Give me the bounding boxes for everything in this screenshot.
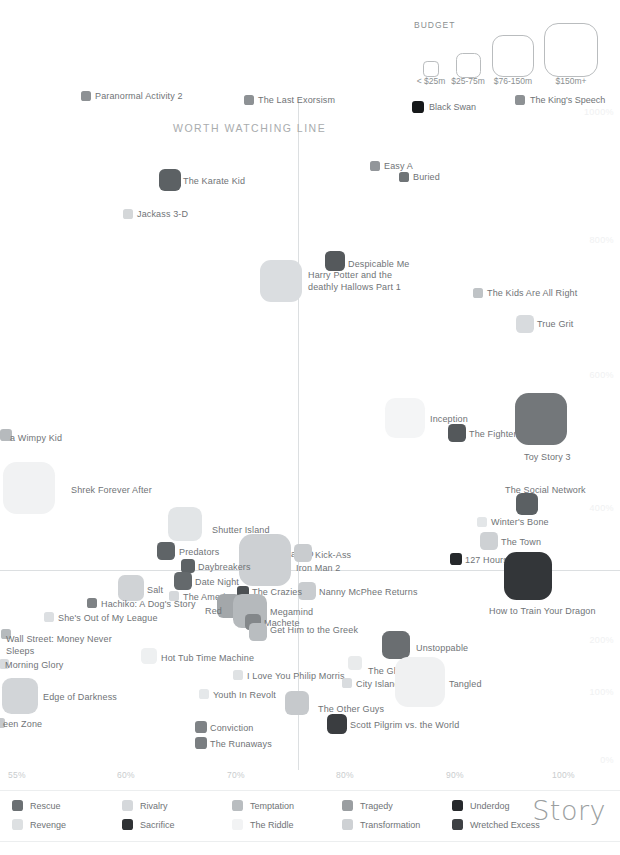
data-point-bubble[interactable] — [342, 678, 352, 688]
data-point-label: Tangled — [449, 679, 482, 691]
story-legend-label: Rivalry — [140, 801, 168, 811]
data-point-label: Easy A — [384, 161, 413, 173]
y-axis-tick: 600% — [589, 370, 614, 380]
budget-legend-example-bubble[interactable] — [412, 101, 424, 113]
data-point-label: Get Him to the Greek — [270, 625, 358, 637]
x-axis-tick: 100% — [552, 770, 575, 780]
data-point-label: The Town — [501, 537, 541, 549]
story-legend-item[interactable]: The Riddle — [232, 819, 294, 830]
story-legend-swatch — [452, 800, 463, 811]
data-point-label: een Zone — [3, 719, 42, 731]
x-axis-tick: 70% — [227, 770, 245, 780]
data-point-bubble[interactable] — [399, 172, 409, 182]
data-point-bubble[interactable] — [249, 623, 267, 641]
x-axis-tick: 55% — [8, 770, 26, 780]
data-point-bubble[interactable] — [157, 542, 175, 560]
data-point-label: Edge of Darkness — [43, 692, 117, 704]
data-point-bubble[interactable] — [168, 507, 202, 541]
story-legend-item[interactable]: Underdog — [452, 800, 510, 811]
chart-title: Story — [532, 795, 606, 826]
data-point-bubble[interactable] — [195, 721, 207, 733]
data-point-label: Toy Story 3 — [524, 452, 571, 464]
x-axis-ticks: 55%60%70%80%90%100% — [0, 770, 620, 786]
data-point-bubble[interactable] — [199, 689, 209, 699]
data-point-label: Conviction — [210, 723, 254, 735]
data-point-bubble[interactable] — [450, 553, 462, 565]
data-point-bubble[interactable] — [174, 572, 192, 590]
worth-watching-vertical-line — [298, 100, 299, 770]
story-legend-swatch — [232, 800, 243, 811]
data-point-bubble[interactable] — [480, 532, 498, 550]
data-point-label: How to Train Your Dragon — [489, 606, 596, 618]
data-point-label: Predators — [179, 547, 219, 559]
data-point-bubble[interactable] — [239, 534, 291, 586]
data-point-bubble[interactable] — [348, 656, 362, 670]
data-point-label: Wall Street: Money Never Sleeps — [6, 634, 116, 657]
data-point-label: Morning Glory — [5, 660, 63, 672]
data-point-bubble[interactable] — [477, 517, 487, 527]
story-legend-item[interactable]: Rivalry — [122, 800, 168, 811]
data-point-bubble[interactable] — [118, 575, 144, 601]
data-point-bubble[interactable] — [370, 161, 380, 171]
story-legend-item[interactable]: Wretched Excess — [452, 819, 540, 830]
data-point-bubble[interactable] — [285, 691, 309, 715]
scatter-plot-canvas: WORTH WATCHING LINE 1000%800%600%400%200… — [0, 0, 620, 785]
data-point-bubble[interactable] — [181, 559, 195, 573]
data-point-bubble[interactable] — [382, 631, 410, 659]
data-point-bubble[interactable] — [44, 612, 54, 622]
story-legend-swatch — [122, 819, 133, 830]
story-legend-item[interactable]: Transformation — [342, 819, 420, 830]
y-axis-tick: 800% — [589, 235, 614, 245]
story-legend-swatch — [12, 800, 23, 811]
data-point-bubble[interactable] — [244, 95, 254, 105]
data-point-bubble[interactable] — [141, 648, 157, 664]
data-point-bubble[interactable] — [473, 288, 483, 298]
story-legend-item[interactable]: Rescue — [12, 800, 61, 811]
data-point-bubble[interactable] — [504, 552, 552, 600]
data-point-bubble[interactable] — [385, 398, 425, 438]
story-legend-item[interactable]: Sacrifice — [122, 819, 175, 830]
data-point-bubble[interactable] — [3, 462, 55, 514]
data-point-bubble[interactable] — [159, 169, 181, 191]
story-legend-swatch — [452, 819, 463, 830]
budget-size-ring — [423, 61, 439, 77]
data-point-label: The Kids Are All Right — [487, 288, 577, 300]
data-point-bubble[interactable] — [516, 315, 534, 333]
data-point-bubble[interactable] — [233, 670, 243, 680]
data-point-bubble[interactable] — [2, 678, 38, 714]
data-point-bubble[interactable] — [294, 544, 312, 562]
data-point-bubble[interactable] — [260, 260, 302, 302]
story-legend-item[interactable]: Revenge — [12, 819, 66, 830]
data-point-label: Shrek Forever After — [71, 485, 152, 497]
data-point-bubble[interactable] — [327, 714, 347, 734]
budget-size-label: $25-75m — [445, 76, 491, 86]
data-point-label: She's Out of My League — [58, 613, 158, 625]
story-legend-item[interactable]: Tragedy — [342, 800, 393, 811]
data-point-label: Unstoppable — [416, 643, 468, 655]
story-legend-label: Temptation — [250, 801, 294, 811]
budget-legend: BUDGET < $25m$25-75m$76-150m$150m+Black … — [414, 20, 614, 115]
data-point-label: Harry Potter and the deathly Hallows Par… — [308, 270, 418, 293]
data-point-label: Daybreakers — [198, 562, 251, 574]
budget-legend-example-bubble[interactable] — [515, 95, 525, 105]
data-point-label: Kick-Ass — [315, 550, 351, 562]
x-axis-tick: 60% — [117, 770, 135, 780]
data-point-bubble[interactable] — [81, 91, 91, 101]
worth-watching-line-label: WORTH WATCHING LINE — [173, 122, 326, 134]
story-legend-item[interactable]: Temptation — [232, 800, 294, 811]
story-legend-label: The Riddle — [250, 820, 294, 830]
data-point-bubble[interactable] — [195, 737, 207, 749]
y-axis-tick: 0% — [600, 755, 614, 765]
data-point-bubble[interactable] — [515, 393, 567, 445]
budget-legend-title: BUDGET — [414, 20, 455, 30]
data-point-bubble[interactable] — [395, 657, 445, 707]
data-point-bubble[interactable] — [325, 251, 345, 271]
data-point-bubble[interactable] — [448, 424, 466, 442]
data-point-label: I Love You Philip Morris — [247, 671, 345, 683]
data-point-label: Scott Pilgrim vs. the World — [350, 720, 459, 732]
data-point-bubble[interactable] — [87, 598, 97, 608]
data-point-bubble[interactable] — [123, 209, 133, 219]
data-point-label: Nanny McPhee Returns — [319, 587, 418, 599]
story-legend-label: Wretched Excess — [470, 820, 540, 830]
y-axis-tick: 200% — [589, 635, 614, 645]
